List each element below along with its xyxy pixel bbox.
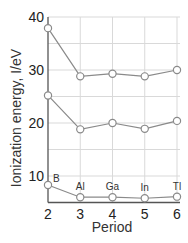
data-point	[44, 25, 51, 32]
y-tick-label: 30	[28, 62, 44, 78]
element-label: Tl	[173, 181, 181, 192]
data-point	[77, 194, 84, 201]
data-point	[44, 92, 51, 99]
data-point	[109, 119, 116, 126]
element-label: B	[53, 173, 60, 184]
element-label: In	[141, 182, 149, 193]
tick-labels: 1020304023456	[28, 9, 181, 222]
x-tick-label: 6	[173, 206, 181, 222]
ionization-energy-chart: 1020304023456 BAlGaInTl Period Ionizatio…	[0, 0, 188, 243]
data-point	[173, 66, 180, 73]
data-point	[173, 117, 180, 124]
element-label: Al	[76, 181, 85, 192]
x-tick-label: 2	[44, 206, 52, 222]
data-point	[109, 70, 116, 77]
y-tick-label: 20	[28, 115, 44, 131]
y-tick-label: 10	[28, 168, 44, 184]
x-tick-label: 5	[141, 206, 149, 222]
data-point	[141, 73, 148, 80]
data-point	[77, 126, 84, 133]
axes	[48, 17, 180, 203]
y-axis-label: Ionization energy, I/eV	[8, 48, 24, 187]
data-point	[77, 73, 84, 80]
grid-lines	[48, 17, 180, 203]
data-point	[109, 194, 116, 201]
x-tick-label: 3	[76, 206, 84, 222]
data-point	[141, 125, 148, 132]
data-point	[141, 195, 148, 202]
data-point	[173, 193, 180, 200]
element-label: Ga	[106, 181, 120, 192]
y-tick-label: 40	[28, 9, 44, 25]
x-axis-label: Period	[92, 219, 132, 235]
data-point	[44, 181, 51, 188]
